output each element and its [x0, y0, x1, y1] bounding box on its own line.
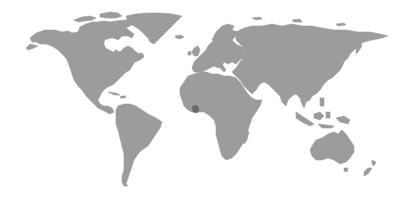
world-map-svg	[0, 0, 416, 202]
region-south-america[interactable]	[116, 104, 162, 186]
region-greenland[interactable]	[126, 13, 182, 44]
world-map	[0, 0, 416, 202]
region-caribbean[interactable]	[108, 92, 126, 98]
region-new-zealand[interactable]	[364, 160, 376, 176]
region-iceland[interactable]	[175, 35, 184, 39]
region-north-america[interactable]	[26, 12, 144, 114]
region-asia[interactable]	[232, 17, 388, 108]
highlighted-country-ghana[interactable]	[192, 105, 199, 113]
region-australia[interactable]	[310, 130, 354, 172]
